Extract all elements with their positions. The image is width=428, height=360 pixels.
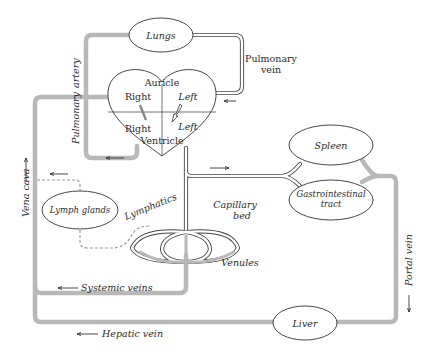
arrow-right-icon <box>210 167 229 170</box>
heart: Auricle Right Left Right Left Ventricle <box>108 70 216 156</box>
pulmonary-vein-label-line1: Pulmonary <box>245 53 298 64</box>
lymphatics-label: Lymphatics <box>122 191 179 222</box>
arrow-left-icon <box>58 287 78 290</box>
liver: Liver <box>273 306 337 340</box>
gi-tract-label-line2: tract <box>321 199 342 209</box>
arrow-left-icon <box>77 333 98 336</box>
liver-label: Liver <box>292 318 319 329</box>
heart-ventricle-label: Ventricle <box>139 135 183 146</box>
heart-left-auricle: Left <box>177 91 197 102</box>
spleen: Spleen <box>289 125 373 165</box>
gi-tract: Gastrointestinal tract <box>289 180 373 220</box>
portal-branch-spleen <box>362 160 378 176</box>
lymphatics-vessel <box>37 180 80 192</box>
systemic-veins-label: Systemic veins <box>81 282 153 293</box>
lymph-glands-label: Lymph glands <box>49 205 111 215</box>
portal-branch-gi <box>362 176 378 182</box>
pulmonary-artery-label-word1: Pulmonary <box>70 91 81 145</box>
pulmonary-artery-label-word2: artery <box>70 58 81 88</box>
arrow-left-icon <box>224 100 236 103</box>
gi-tract-label-line1: Gastrointestinal <box>296 189 365 199</box>
arrow-left-icon <box>50 173 68 176</box>
lymph-glands: Lymph glands <box>42 191 118 229</box>
spleen-label: Spleen <box>315 140 348 151</box>
lungs-label: Lungs <box>145 30 176 41</box>
portal-vein-label: Portal vein <box>403 234 414 287</box>
capillary-bed-label-line1: Capillary <box>213 199 257 210</box>
venules-label: Venules <box>221 257 259 268</box>
lungs: Lungs <box>129 18 193 52</box>
arrow-down-icon <box>408 295 411 312</box>
vena-cava-label: Vena cava <box>20 168 31 217</box>
pulmonary-vein-label-line2: vein <box>260 64 281 75</box>
hepatic-vein-label: Hepatic vein <box>101 328 163 339</box>
circulatory-diagram: Lungs Spleen Gastrointestinal tract Live… <box>0 0 428 360</box>
capillary-bed-label-line2: bed <box>233 210 251 221</box>
heart-right-auricle: Right <box>125 91 151 102</box>
heart-left-ventricle: Left <box>177 121 197 132</box>
heart-auricle-label: Auricle <box>144 77 180 88</box>
heart-right-ventricle: Right <box>125 123 151 134</box>
